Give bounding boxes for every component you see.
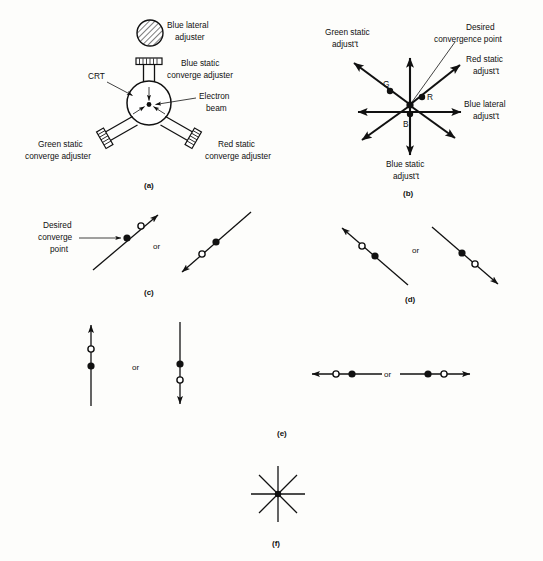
panel-e-mid-filled-dot: [176, 360, 183, 367]
electron-beam-label-line1: Electron: [199, 91, 230, 101]
page-background: [0, 0, 543, 561]
panel-c-left-open-dot: [138, 223, 144, 229]
red-beam-dot: [419, 94, 425, 100]
panel-c-right-filled-dot: [212, 238, 219, 245]
red-static-adjust-label-line2: adjust't: [473, 66, 500, 76]
panel-e-right-left-filled-dot: [348, 370, 355, 377]
panel-e-right-right-open-dot: [441, 371, 447, 377]
desired-convergence-label-line2: convergence point: [434, 34, 503, 44]
red-static-adjuster-label-line1: Red static: [218, 139, 255, 149]
panel-e-right-or-label: or: [384, 370, 391, 379]
panel-c-left-filled-dot: [123, 234, 130, 241]
panel-c-desired-label-line3: point: [50, 244, 69, 254]
blue-lateral-adjust-label-line1: Blue lateral: [464, 99, 506, 109]
panel-d-caption: (d): [405, 295, 416, 304]
star-center-dot: [275, 491, 281, 497]
panel-f-caption: (f): [272, 539, 280, 548]
blue-static-adjuster-label-line2: converge adjuster: [167, 70, 233, 80]
blue-lateral-adjuster-label-line2: adjuster: [175, 32, 205, 42]
panel-d-or-label: or: [412, 246, 419, 255]
panel-e-left-filled-dot: [87, 362, 94, 369]
panel-d-right-filled-dot: [458, 249, 465, 256]
panel-e-right-left-open-dot: [333, 371, 339, 377]
panel-a-caption: (a): [144, 181, 154, 190]
blue-static-adjuster-label-line1: Blue static: [181, 58, 219, 68]
green-static-adjuster-label-line2: converge adjuster: [25, 151, 91, 161]
panel-d-right-open-dot: [472, 261, 478, 267]
green-beam-marker-label: G: [383, 79, 389, 89]
panel-d-left-open-dot: [359, 243, 365, 249]
panel-e-mid-open-dot: [177, 377, 183, 383]
green-static-adjuster-label-line1: Green static: [38, 139, 83, 149]
desired-convergence-label-line1: Desired: [466, 22, 495, 32]
panel-c-caption: (c): [144, 288, 154, 297]
red-static-adjuster-label-line2: converge adjuster: [205, 151, 271, 161]
red-beam-marker-label: R: [427, 92, 433, 102]
panel-d-left-filled-dot: [371, 252, 378, 259]
panel-e-caption: (e): [277, 429, 287, 438]
red-static-adjust-label-line1: Red static: [466, 54, 503, 64]
panel-c-right-open-dot: [199, 251, 205, 257]
blue-lateral-adjuster-label-line1: Blue lateral: [167, 20, 209, 30]
convergence-diagram: Blue lateral adjuster Blue static conver…: [0, 0, 543, 561]
panel-e-left-open-dot: [88, 346, 94, 352]
panel-c-or-label: or: [153, 242, 160, 251]
blue-static-adjust-label-line2: adjust't: [393, 171, 420, 181]
blue-lateral-adjuster-icon: [137, 20, 163, 46]
blue-lateral-adjust-label-line2: adjust't: [473, 111, 500, 121]
electron-beam-label-line2: beam: [206, 103, 227, 113]
convergence-center-dot: [406, 101, 413, 108]
green-static-adjust-label-line2: adjust't: [332, 39, 359, 49]
green-static-adjust-label-line1: Green static: [325, 27, 370, 37]
crt-label: CRT: [88, 71, 105, 81]
panel-b-caption: (b): [403, 189, 414, 198]
electron-beam-point: [147, 102, 152, 107]
figure-container: Blue lateral adjuster Blue static conver…: [0, 0, 543, 561]
blue-beam-marker-label: B: [403, 119, 409, 129]
panel-c-desired-label-line1: Desired: [43, 220, 72, 230]
blue-static-adjust-label-line1: Blue static: [386, 159, 424, 169]
panel-c-desired-label-line2: converge: [38, 232, 73, 242]
blue-beam-dot: [407, 111, 413, 117]
panel-e-left-or-label: or: [132, 363, 139, 372]
panel-e-right-right-filled-dot: [424, 370, 431, 377]
